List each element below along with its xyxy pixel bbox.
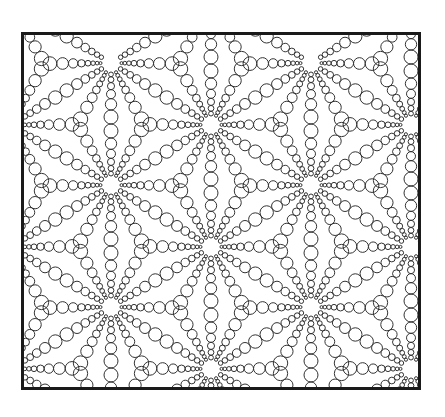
chain-circle — [408, 105, 414, 111]
chain-circle — [417, 139, 421, 144]
chain-circle — [308, 287, 314, 293]
chain-circle — [207, 89, 216, 98]
chain-circle — [243, 179, 257, 193]
chain-circle — [405, 322, 416, 333]
chain-circle — [204, 308, 218, 322]
chain-circle — [205, 322, 216, 333]
chain-circle — [407, 152, 416, 161]
chain-circle — [65, 118, 79, 132]
chain-circle — [34, 306, 48, 320]
chain-circle — [417, 350, 421, 355]
chain-circle — [143, 118, 157, 132]
chain-circle — [68, 303, 77, 312]
chain-circle — [37, 243, 44, 250]
chain-circle — [373, 184, 387, 198]
chain-circle — [168, 242, 177, 251]
chain-circle — [304, 124, 318, 138]
chain-circle — [378, 121, 385, 128]
chain-circle — [105, 99, 116, 110]
chain-circle — [395, 245, 399, 249]
chain-circle — [137, 182, 144, 189]
chain-circle — [137, 60, 144, 67]
chain-circle — [409, 233, 414, 238]
chain-circle — [304, 368, 318, 382]
chain-circle — [91, 305, 96, 310]
chain-circle — [85, 304, 91, 310]
chain-circle — [331, 60, 337, 66]
chain-circle — [273, 122, 287, 136]
chain-circle — [85, 60, 91, 66]
chain-circle — [95, 183, 99, 187]
chain-circle — [207, 333, 216, 342]
chain-circle — [208, 105, 214, 111]
chain-circle — [331, 304, 337, 310]
chain-circle — [399, 117, 404, 122]
chain-circle — [104, 368, 118, 382]
chain-circle — [208, 227, 214, 233]
chain-circle — [165, 179, 179, 193]
chain-circle — [257, 180, 269, 192]
chain-circle — [31, 244, 37, 250]
chain-circle — [205, 161, 216, 172]
chain-circle — [227, 123, 232, 128]
chain-circle — [127, 305, 132, 310]
chain-circle — [309, 72, 314, 77]
chain-circle — [54, 241, 66, 253]
chain-circle — [409, 256, 414, 261]
chain-circle — [78, 60, 85, 67]
chain-circle — [408, 227, 414, 233]
chain-circle — [308, 321, 314, 327]
chain-circle — [273, 244, 287, 258]
chain-circle — [204, 64, 218, 78]
chain-circle — [360, 389, 373, 390]
chain-circle — [291, 305, 296, 310]
chain-circle — [73, 366, 87, 380]
chain-circle — [160, 389, 173, 390]
chain-circle — [323, 61, 327, 65]
chain-circle — [207, 98, 214, 105]
chain-circle — [68, 181, 77, 190]
chain-circle — [149, 32, 162, 43]
chain-circle — [107, 212, 116, 221]
chain-circle — [99, 311, 104, 316]
chain-circle — [234, 184, 248, 198]
chain-circle — [207, 145, 214, 152]
chain-circle — [154, 180, 166, 192]
chain-circle — [207, 220, 214, 227]
chain-circle — [178, 365, 185, 372]
chain-circle — [21, 367, 23, 370]
chain-circle — [268, 59, 277, 68]
chain-circle — [234, 62, 248, 76]
chain-circle — [285, 182, 291, 188]
chain-circle — [107, 158, 114, 165]
chain-circle — [209, 233, 214, 238]
chain-circle — [107, 280, 114, 287]
chain-circle — [21, 373, 23, 378]
chain-circle — [273, 366, 287, 380]
chain-circle — [397, 387, 403, 390]
chain-circle — [417, 261, 421, 266]
chain-circle — [295, 183, 299, 187]
chain-circle — [408, 383, 414, 389]
chain-circle — [285, 60, 291, 66]
chain-circle — [21, 350, 22, 355]
chain-circle — [354, 180, 366, 192]
chain-circle — [240, 384, 251, 390]
chain-circle — [257, 58, 269, 70]
chain-circle — [109, 194, 114, 199]
chain-circle — [91, 61, 96, 66]
chain-circle — [405, 200, 416, 211]
chain-circle — [418, 251, 421, 256]
chain-circle — [21, 239, 23, 244]
chain-circle — [34, 62, 48, 76]
chain-circle — [65, 240, 79, 254]
chain-circle — [204, 172, 218, 186]
chain-circle — [368, 364, 377, 373]
chain-circle — [307, 327, 314, 334]
chain-circle — [205, 39, 216, 50]
chain-circle — [109, 293, 114, 298]
chain-circle — [419, 223, 421, 229]
chain-circle — [416, 233, 420, 237]
chain-circle — [237, 365, 244, 372]
chain-circle — [209, 111, 214, 116]
